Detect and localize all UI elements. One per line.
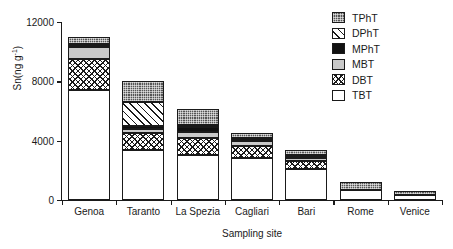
- bar-segment-tpht[interactable]: [68, 37, 110, 44]
- bar-segment-dpht[interactable]: [177, 125, 219, 127]
- bar-segment-dpht[interactable]: [285, 155, 327, 157]
- bar-la-spezia[interactable]: [177, 22, 219, 200]
- bar-segment-tbt[interactable]: [285, 169, 327, 200]
- bar-segment-dbt[interactable]: [122, 133, 164, 149]
- legend-label-mbt: MBT: [352, 59, 374, 70]
- bar-segment-tbt[interactable]: [340, 190, 382, 200]
- legend-swatch-mbt: [332, 59, 345, 70]
- bar-genoa[interactable]: [68, 22, 110, 200]
- bar-segment-mpht[interactable]: [177, 127, 219, 131]
- legend-swatch-mpht: [332, 43, 345, 54]
- bar-segment-tbt[interactable]: [122, 150, 164, 200]
- x-axis-tick: [225, 200, 226, 205]
- y-axis-title-exponent: -1: [11, 49, 18, 55]
- y-axis-tick: [57, 22, 62, 23]
- bar-segment-tpht[interactable]: [394, 191, 436, 195]
- bar-segment-mbt[interactable]: [68, 47, 110, 59]
- bar-segment-tpht[interactable]: [177, 109, 219, 125]
- legend-item-tbt[interactable]: TBT: [332, 88, 450, 104]
- bar-segment-dpht[interactable]: [122, 102, 164, 126]
- bar-segment-mbt[interactable]: [285, 158, 327, 160]
- legend-label-tpht: TPhT: [352, 13, 378, 24]
- x-axis-label-la-spezia: La Spezia: [175, 206, 219, 217]
- legend-item-tpht[interactable]: TPhT: [332, 10, 450, 26]
- legend-label-dpht: DPhT: [352, 28, 379, 39]
- x-axis-label-cagliari: Cagliari: [235, 206, 269, 217]
- y-axis-title-main: Sn(ng g: [12, 55, 23, 90]
- x-axis-label-bari: Bari: [297, 206, 315, 217]
- legend-item-dbt[interactable]: DBT: [332, 72, 450, 88]
- bar-segment-dbt[interactable]: [231, 146, 273, 158]
- x-axis-label-genoa: Genoa: [74, 206, 104, 217]
- legend-swatch-dbt: [332, 74, 345, 85]
- bar-taranto[interactable]: [122, 22, 164, 200]
- x-axis-tick: [442, 200, 443, 205]
- bar-segment-mpht[interactable]: [68, 46, 110, 48]
- bar-segment-mbt[interactable]: [122, 129, 164, 133]
- legend-swatch-tpht: [332, 12, 345, 23]
- y-axis-tick: [57, 81, 62, 82]
- legend-label-mpht: MPhT: [352, 44, 380, 55]
- x-axis-label-venice: Venice: [400, 206, 430, 217]
- bar-segment-mpht[interactable]: [122, 126, 164, 129]
- legend-item-mbt[interactable]: MBT: [332, 57, 450, 73]
- y-axis-title-tail: ): [12, 46, 23, 49]
- bar-segment-mbt[interactable]: [231, 141, 273, 146]
- bar-segment-tpht[interactable]: [122, 81, 164, 103]
- x-axis-tick: [171, 200, 172, 205]
- x-axis-tick: [279, 200, 280, 205]
- legend-label-dbt: DBT: [352, 75, 373, 86]
- y-axis-line: [61, 22, 62, 201]
- legend: TPhTDPhTMPhTMBTDBTTBT: [332, 10, 450, 103]
- x-axis-tick: [333, 200, 334, 205]
- bar-segment-dbt[interactable]: [285, 161, 327, 169]
- x-axis-tick: [388, 200, 389, 205]
- x-axis-line: [61, 200, 443, 201]
- bar-segment-tbt[interactable]: [177, 155, 219, 200]
- bar-segment-tbt[interactable]: [231, 158, 273, 200]
- bar-segment-tpht[interactable]: [285, 150, 327, 154]
- y-axis-tick: [57, 141, 62, 142]
- bar-segment-dbt[interactable]: [68, 59, 110, 90]
- legend-item-mpht[interactable]: MPhT: [332, 41, 450, 57]
- x-axis-label-rome: Rome: [347, 206, 374, 217]
- x-axis-label-taranto: Taranto: [127, 206, 160, 217]
- legend-label-tbt: TBT: [352, 90, 372, 101]
- legend-item-dpht[interactable]: DPhT: [332, 26, 450, 42]
- bar-segment-dpht[interactable]: [231, 138, 273, 140]
- bar-segment-dbt[interactable]: [177, 138, 219, 155]
- bar-segment-mbt[interactable]: [177, 132, 219, 138]
- legend-swatch-tbt: [332, 90, 345, 101]
- bar-segment-tbt[interactable]: [394, 195, 436, 200]
- bar-segment-tpht[interactable]: [340, 182, 382, 189]
- y-axis-tick-label: 0: [48, 195, 54, 206]
- bar-cagliari[interactable]: [231, 22, 273, 200]
- x-axis-title: Sampling site: [62, 228, 442, 239]
- x-axis-tick: [116, 200, 117, 205]
- bar-segment-tpht[interactable]: [231, 133, 273, 138]
- stacked-bar-chart: Sn(ng g-1) 04000800012000GenoaTarantoLa …: [0, 0, 453, 249]
- bar-segment-tbt[interactable]: [68, 90, 110, 200]
- bar-bari[interactable]: [285, 22, 327, 200]
- bar-segment-dpht[interactable]: [68, 44, 110, 46]
- y-axis-title: Sn(ng g-1): [11, 13, 23, 123]
- legend-swatch-dpht: [332, 28, 345, 39]
- y-axis-tick-label: 8000: [32, 76, 54, 87]
- x-axis-tick: [62, 200, 63, 205]
- y-axis-tick-label: 12000: [26, 17, 54, 28]
- y-axis-tick-label: 4000: [32, 135, 54, 146]
